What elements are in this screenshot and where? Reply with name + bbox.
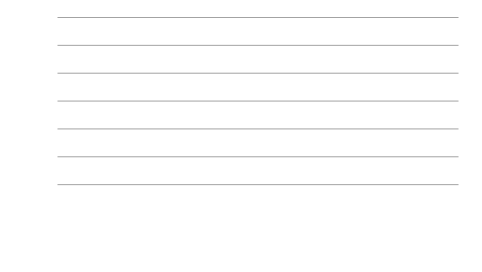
gridlines (58, 18, 459, 185)
price-line-chart (0, 0, 482, 272)
chart-canvas (0, 0, 482, 272)
